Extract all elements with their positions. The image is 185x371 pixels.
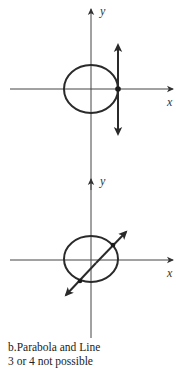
x-axis-label-top: x: [166, 95, 173, 109]
x-axis-label-bottom: x: [166, 266, 173, 280]
tangent-point-dot: [115, 86, 121, 92]
diagram-figure: y x y x: [0, 0, 185, 371]
y-axis-label-top: y: [99, 4, 106, 18]
intersection-dot-upper: [111, 243, 116, 248]
y-axis-label-bottom: y: [99, 174, 106, 188]
intersection-dot-lower: [78, 279, 83, 284]
caption-note: 3 or 4 not possible: [8, 355, 93, 368]
graph-top: y x: [10, 4, 173, 190]
graph-bottom: y x: [10, 174, 173, 338]
caption-title: b.Parabola and Line: [8, 341, 100, 354]
